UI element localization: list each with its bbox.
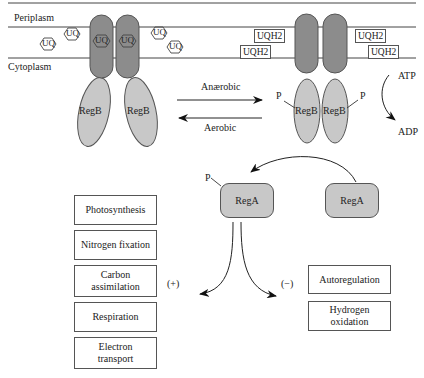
uq-label-free-4: UQ [169, 41, 182, 51]
uq-label-bound-1: UQ [95, 35, 108, 45]
regB-right-label-2: RegB [323, 105, 346, 116]
atp-adp-arrow [382, 75, 395, 120]
regA-phosphate-label: P [205, 172, 211, 183]
target-nitrogen-fixation: Nitrogen fixation [74, 230, 157, 260]
phosphate-label-left: P [276, 90, 282, 101]
target-label-line1: Electron [99, 341, 133, 353]
uq-label-free-1: UQ [42, 38, 55, 48]
regB-right-tm-2 [323, 14, 347, 73]
periplasm-label: Periplasm [14, 12, 54, 23]
target-label: Nitrogen fixation [81, 239, 150, 251]
target-carbon-assimilation: Carbon assimilation [74, 265, 157, 297]
target-label-line1: Hydrogen [330, 304, 370, 316]
regB-left-tm-2 [116, 15, 139, 78]
activation-arrow [200, 222, 233, 294]
uqh2-box-2: UQH2 [240, 45, 271, 59]
target-label-line2: oxidation [331, 316, 369, 328]
regB-left-tm-1 [90, 15, 113, 78]
uq-label-bound-2: UQ [121, 35, 134, 45]
phosphate-bond-right [347, 100, 358, 108]
uqh2-box-3: UQH2 [355, 29, 386, 43]
target-photosynthesis: Photosynthesis [74, 195, 157, 225]
target-label-line2: assimilation [91, 281, 139, 293]
target-electron-transport: Electron transport [74, 337, 157, 369]
repression-arrow [241, 222, 276, 296]
uqh2-box-1: UQH2 [254, 29, 285, 43]
regA-unphosphorylated: RegA [325, 183, 379, 218]
target-hydrogen-oxidation: Hydrogen oxidation [308, 301, 391, 331]
phosphate-label-right: P [360, 90, 366, 101]
phosphate-bond-left [284, 101, 295, 108]
target-label-line2: transport [98, 353, 134, 365]
regB-right-label-1: RegB [295, 105, 318, 116]
cytoplasm-label: Cytoplasm [8, 61, 51, 72]
regA-unphosphorylated-label: RegA [340, 195, 363, 206]
target-autoregulation: Autoregulation [308, 265, 391, 294]
regA-phosphorylated: RegA [220, 183, 274, 218]
regB-left-label-2: RegB [127, 105, 150, 116]
regB-left-label-1: RegB [79, 105, 102, 116]
atp-label: ATP [398, 70, 416, 81]
phosphotransfer-arrow [251, 157, 356, 182]
uq-label-free-3: UQ [153, 27, 166, 37]
target-label-line1: Carbon [101, 269, 130, 281]
repression-sign: (−) [281, 278, 293, 289]
uq-label-free-2: UQ [66, 28, 79, 38]
regA-phosphate-bond [211, 178, 221, 186]
target-respiration: Respiration [74, 302, 157, 332]
regA-phosphorylated-label: RegA [235, 195, 258, 206]
regB-right-tm-1 [295, 14, 318, 73]
target-label: Respiration [92, 311, 138, 323]
adp-label: ADP [398, 126, 418, 137]
aerobic-label: Aerobic [204, 122, 236, 133]
uqh2-box-4: UQH2 [368, 45, 399, 59]
target-label: Photosynthesis [85, 204, 145, 216]
activation-sign: (+) [167, 278, 179, 289]
target-label: Autoregulation [319, 274, 380, 286]
anaerobic-label: Anærobic [201, 81, 240, 92]
